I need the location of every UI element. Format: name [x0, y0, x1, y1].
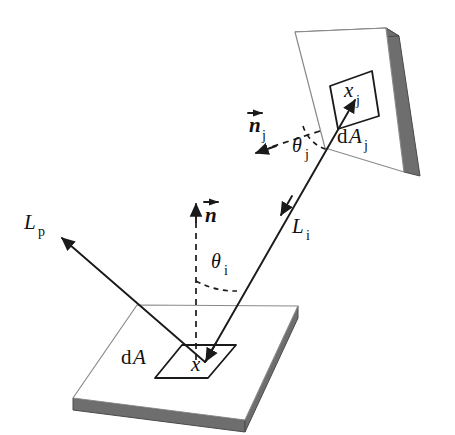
label-Li-base: L — [291, 214, 304, 238]
label-n-base: n — [205, 203, 217, 227]
label-dAj-A: A — [347, 124, 362, 148]
label-dA-d: d — [121, 345, 132, 369]
label-surface-normal: n — [204, 202, 218, 227]
label-emitter-normal: n j — [248, 113, 266, 143]
label-point-x: x — [190, 352, 201, 376]
label-theta-j: θ j — [292, 134, 309, 162]
label-differential-area-dA: d A — [121, 345, 146, 369]
label-incident-radiance: L i — [291, 214, 310, 243]
diagram-canvas: L p L i n n j θ i θ j x — [0, 0, 455, 435]
label-dAj-d: d — [337, 124, 348, 148]
label-theta-i: θ i — [211, 250, 228, 278]
receiver-surface-top-face — [73, 305, 298, 420]
label-Lp-base: L — [23, 210, 36, 234]
label-Lp-sub: p — [38, 224, 45, 239]
label-theta-j-sub: j — [304, 147, 309, 162]
theta-i-angle-arc — [196, 281, 237, 291]
receiver-surface-slab — [73, 305, 298, 432]
label-nj-sub: j — [261, 128, 266, 143]
emitter-normal-arrowhead — [256, 146, 276, 153]
label-dA-A: A — [131, 345, 146, 369]
label-xj-sub: j — [355, 93, 360, 108]
label-theta-i-base: θ — [211, 250, 221, 272]
label-xj-base: x — [343, 78, 354, 102]
label-nj-base: n — [249, 113, 261, 137]
label-theta-j-base: θ — [292, 134, 302, 156]
label-theta-i-sub: i — [224, 263, 228, 278]
label-reflected-radiance: L p — [23, 210, 45, 239]
label-dAj-sub: j — [363, 138, 368, 153]
radiometry-diagram-svg: L p L i n n j θ i θ j x — [0, 0, 455, 435]
label-Li-sub: i — [306, 228, 310, 243]
